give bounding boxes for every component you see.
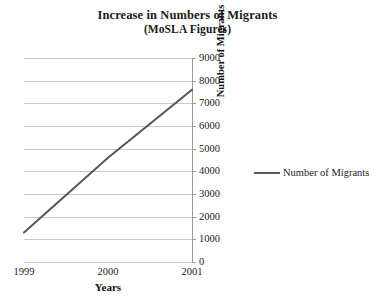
y-tick-label-2000: 2000 — [199, 212, 233, 222]
chart-title: Increase in Numbers of Migrants — [0, 8, 375, 23]
y-tick-label-1000: 1000 — [199, 234, 233, 244]
legend-label-number-of-migrants: Number of Migrants — [283, 167, 369, 178]
y-tick-mark-3000 — [192, 194, 196, 195]
x-tick-label-2001: 2001 — [169, 266, 215, 277]
migrants-line-chart: Increase in Numbers of Migrants (MoSLA F… — [0, 0, 375, 307]
y-tick-mark-0 — [192, 262, 196, 263]
data-series-line — [24, 58, 192, 262]
y-tick-label-5000: 5000 — [199, 144, 233, 154]
y-tick-mark-2000 — [192, 217, 196, 218]
x-tick-label-1999: 1999 — [1, 266, 47, 277]
legend-line-swatch — [254, 172, 280, 174]
chart-title-block: Increase in Numbers of Migrants (MoSLA F… — [0, 8, 375, 36]
y-tick-label-6000: 6000 — [199, 121, 233, 131]
y-axis-title: Number of Migrants — [215, 0, 229, 106]
y-tick-mark-7000 — [192, 103, 196, 104]
x-tick-label-2000: 2000 — [85, 266, 131, 277]
y-tick-mark-6000 — [192, 126, 196, 127]
chart-legend: Number of Migrants — [254, 167, 369, 178]
chart-subtitle: (MoSLA Figures) — [0, 23, 375, 37]
y-tick-mark-9000 — [192, 58, 196, 59]
axis-line-x — [24, 262, 192, 263]
y-tick-mark-8000 — [192, 81, 196, 82]
y-tick-mark-5000 — [192, 149, 196, 150]
y-tick-mark-1000 — [192, 239, 196, 240]
y-tick-label-3000: 3000 — [199, 189, 233, 199]
x-axis-title: Years — [24, 281, 192, 293]
y-tick-mark-4000 — [192, 171, 196, 172]
y-tick-label-4000: 4000 — [199, 166, 233, 176]
series-number-of-migrants — [24, 90, 192, 233]
